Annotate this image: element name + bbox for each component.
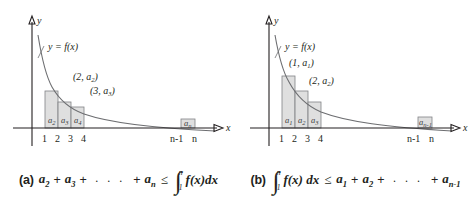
tick-label-1: 1 [42, 133, 47, 144]
caption-integrand: f(x)dx [186, 172, 219, 188]
caption-integral: ∫ n 1 [273, 168, 282, 193]
caption-term-2: a3 [65, 171, 76, 189]
caption-plus-1: + [53, 173, 60, 187]
caption-plus-1: + [351, 173, 358, 187]
x-axis-label: x [462, 122, 468, 133]
panel-b: y x y = f(x) (1, a1) (2, a2) a1 a2 [237, 0, 474, 200]
x-axis-label: x [225, 122, 231, 133]
caption-plus-3: + [431, 173, 438, 187]
caption-term-n: an [145, 171, 156, 189]
caption-term-n-minus-1: an-1 [442, 171, 460, 189]
caption-term-1: a2 [39, 171, 50, 189]
panel-a: y x y = f(x) (2, a2) (3, a3) a2 a3 [0, 0, 237, 200]
curve-label-leader [38, 46, 44, 58]
caption-term-2: a2 [362, 171, 373, 189]
curve-label: y = f(x) [284, 41, 316, 53]
curve-label: y = f(x) [47, 41, 79, 53]
caption-integrand: f(x) dx [283, 172, 319, 188]
tick-label-2: 2 [292, 133, 297, 144]
tick-label-4: 4 [81, 133, 86, 144]
caption-plus-2: + [377, 173, 384, 187]
point-label-2: (3, a3) [90, 85, 116, 97]
caption-relation: ≤ [324, 172, 331, 188]
caption-ellipsis: · · · [392, 174, 423, 189]
point-label-1: (1, a1) [289, 57, 315, 69]
y-axis-label: y [273, 15, 279, 26]
y-axis-label: y [36, 15, 42, 26]
caption-plus-2: + [79, 173, 86, 187]
panel-a-plot: y x y = f(x) (2, a2) (3, a3) a2 a3 [0, 0, 237, 160]
tick-label-4: 4 [318, 133, 323, 144]
panel-b-plot: y x y = f(x) (1, a1) (2, a2) a1 a2 [237, 0, 474, 160]
caption-relation: ≤ [161, 172, 168, 188]
tick-label-n-minus-1: n-1 [407, 133, 420, 144]
caption-plus-3: + [133, 173, 140, 187]
panel-b-caption: (b) ∫ n 1 f(x) dx ≤ a1 + a2 + · · · + an… [237, 160, 474, 200]
tick-label-n: n [429, 133, 434, 144]
caption-term-1: a1 [336, 171, 347, 189]
point-label-1: (2, a2) [73, 71, 99, 83]
tick-label-3: 3 [68, 133, 73, 144]
integral-test-figure: y x y = f(x) (2, a2) (3, a3) a2 a3 [0, 0, 474, 200]
caption-ellipsis: · · · [95, 174, 126, 189]
caption-integral: ∫ n 1 [175, 168, 184, 193]
integral-sign-icon: ∫ [175, 168, 182, 193]
tick-label-n: n [192, 133, 197, 144]
point-label-2: (2, a2) [309, 75, 335, 87]
tick-label-1: 1 [279, 133, 284, 144]
panel-a-caption: (a) a2 + a3 + · · · + an ≤ ∫ n 1 f(x)dx [0, 160, 237, 200]
integral-sign-icon: ∫ [273, 168, 280, 193]
tick-label-n-minus-1: n-1 [170, 133, 183, 144]
tick-label-2: 2 [55, 133, 60, 144]
caption-tag-b: (b) [250, 173, 265, 187]
tick-label-3: 3 [305, 133, 310, 144]
caption-tag-a: (a) [19, 173, 34, 187]
